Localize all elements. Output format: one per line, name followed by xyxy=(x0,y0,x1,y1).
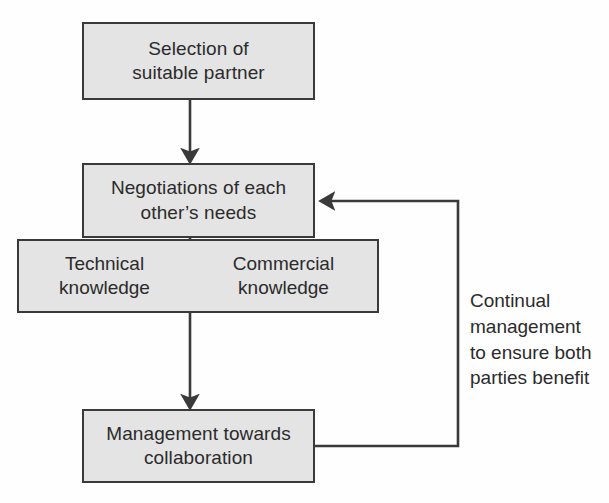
feedback-loop-caption: Continual management to ensure both part… xyxy=(470,288,608,391)
node-negotiations-of-each-others-needs: Negotiations of each other’s needs xyxy=(82,163,315,238)
node-knowledge-band: Technical knowledge Commercial knowledge xyxy=(17,239,379,313)
node-management-towards-collaboration: Management towards collaboration xyxy=(82,409,315,483)
edge-management-feedback-to-negotiations xyxy=(315,201,458,446)
node-technical-knowledge: Technical knowledge xyxy=(19,241,190,311)
flowchart-diagram: Selection of suitable partner Negotiatio… xyxy=(0,0,609,503)
node-selection-of-suitable-partner: Selection of suitable partner xyxy=(82,22,315,100)
node-commercial-knowledge: Commercial knowledge xyxy=(190,241,377,311)
